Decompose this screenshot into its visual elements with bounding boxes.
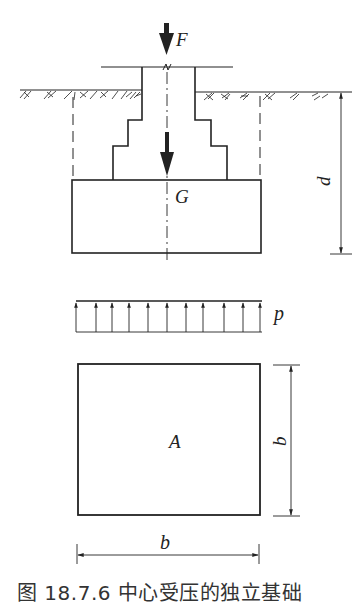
footing-base bbox=[72, 180, 261, 253]
figure-caption: 图 18.7.6 中心受压的独立基础 bbox=[17, 577, 302, 606]
pressure-diagram bbox=[76, 301, 262, 332]
elevation-view bbox=[20, 64, 352, 262]
label-width-vertical: b bbox=[269, 437, 290, 447]
break-mark-icon bbox=[163, 64, 171, 70]
footing-outline-right bbox=[195, 67, 227, 180]
label-self-weight: G bbox=[175, 186, 189, 207]
soil-hatching-right-icon bbox=[204, 93, 328, 100]
pressure-arrows-icon bbox=[76, 303, 260, 332]
label-area: A bbox=[167, 431, 181, 452]
label-depth: d bbox=[313, 176, 334, 186]
depth-dimension bbox=[330, 93, 352, 254]
label-force: F bbox=[175, 29, 188, 50]
footing-outline-left bbox=[113, 67, 142, 180]
gravity-g-arrow-icon bbox=[160, 132, 174, 176]
soil-hatching-left-icon bbox=[20, 91, 141, 100]
label-width-horizontal: b bbox=[160, 531, 170, 553]
label-pressure: p bbox=[272, 302, 284, 325]
force-f-arrow-icon bbox=[159, 23, 174, 55]
